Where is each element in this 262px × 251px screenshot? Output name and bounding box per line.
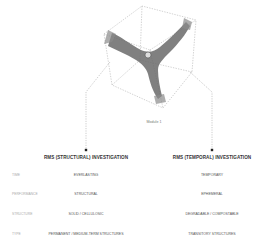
cell-performance-temporal: EPHEMERAL: [201, 192, 223, 196]
row-label-type: TYPE: [12, 232, 21, 236]
row-label-structure: STRUCTURE: [12, 212, 32, 216]
cell-type-temporal: TRANSITORY STRUCTURES: [188, 232, 235, 236]
cell-type-structural: PERMANENT / MEDIUM-TERM STRUCTURES: [49, 232, 124, 236]
row-label-time: TIME: [12, 173, 20, 177]
tripod-form: [104, 18, 192, 104]
marker-right: [211, 149, 213, 151]
cell-structure-structural: SOLID / CELLULOSIC: [68, 212, 103, 216]
cell-time-temporal: TEMPORARY: [201, 173, 223, 177]
marker-left: [85, 149, 87, 151]
figure-caption: Module 1: [147, 120, 162, 124]
cell-performance-structural: STRUCTURAL: [74, 192, 98, 196]
cell-structure-temporal: DEGRADABLE / COMPOSTABLE: [185, 212, 238, 216]
cell-time-structural: EVERLASTING: [74, 173, 99, 177]
row-label-performance: PERFORMANCE: [12, 192, 38, 196]
column-heading-structural: RMS (STRUCTURAL) INVESTIGATION: [44, 155, 128, 160]
column-heading-temporal: RMS (TEMPORAL) INVESTIGATION: [173, 155, 251, 160]
